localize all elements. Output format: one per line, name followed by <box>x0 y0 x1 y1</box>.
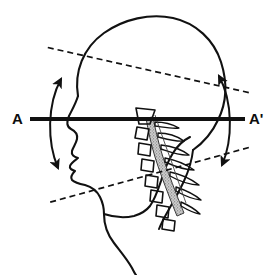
spinous-process <box>176 187 201 200</box>
head-rotation-diagram-svg <box>0 0 276 275</box>
axis-label-a-right: A' <box>249 111 263 126</box>
axis-label-a-left: A <box>12 111 23 126</box>
vertebral-body <box>162 219 175 231</box>
vertebral-body <box>138 143 151 156</box>
vertebral-body <box>135 127 149 140</box>
vertebral-body <box>145 175 158 188</box>
left-range-of-motion-arc <box>50 79 61 168</box>
anterior-neck-descender <box>104 214 136 275</box>
anatomical-figure: A A' <box>0 0 276 275</box>
vertebral-body <box>141 159 154 172</box>
